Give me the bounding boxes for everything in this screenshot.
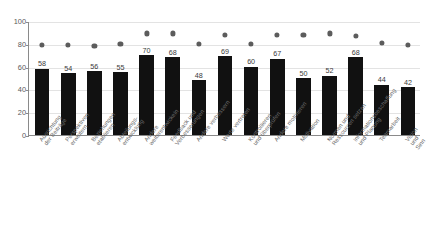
bar-value-label: 56 bbox=[81, 63, 107, 70]
bar-value-label: 68 bbox=[343, 49, 369, 56]
bar-value-label: 44 bbox=[369, 76, 395, 83]
x-axis-category-labels: Ausrichtung der BeiträgePerspektiven erw… bbox=[28, 136, 420, 229]
y-axis-tick-label: 80 bbox=[2, 41, 26, 48]
bar-value-label: 68 bbox=[160, 49, 186, 56]
y-axis-tick-label: 40 bbox=[2, 87, 26, 94]
bar-value-label: 50 bbox=[290, 70, 316, 77]
bar-value-label: 42 bbox=[395, 79, 421, 86]
bar-value-label: 70 bbox=[134, 47, 160, 54]
y-axis-tick-label: 0 bbox=[2, 132, 26, 139]
y-axis-tick-label: 100 bbox=[2, 18, 26, 25]
y-axis-tick-label: 20 bbox=[2, 109, 26, 116]
bar-value-label: 58 bbox=[29, 60, 55, 67]
bar-value-label: 60 bbox=[238, 58, 264, 65]
bar-value-label: 48 bbox=[186, 72, 212, 79]
bar-value-label: 69 bbox=[212, 48, 238, 55]
bar-value-label: 55 bbox=[107, 64, 133, 71]
bar-value-label: 67 bbox=[264, 50, 290, 57]
y-axis-tick-label: 60 bbox=[2, 64, 26, 71]
bar-value-label: 52 bbox=[316, 67, 342, 74]
y-axis: 020406080100 bbox=[0, 22, 26, 136]
bar-value-label: 54 bbox=[55, 65, 81, 72]
